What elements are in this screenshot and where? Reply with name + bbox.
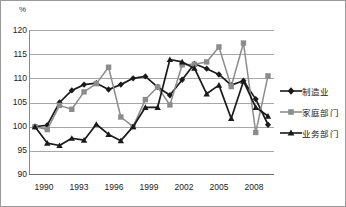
diamond-marker-icon xyxy=(280,85,302,97)
x-tick-1993: 1993 xyxy=(66,182,92,192)
x-tick-1996: 1996 xyxy=(101,182,127,192)
y-tick-100: 100 xyxy=(3,122,27,130)
legend-item-manufacturing[interactable]: 制造业 xyxy=(280,80,346,101)
legend-label-business: 业务部门 xyxy=(302,127,339,139)
y-tick-115: 115 xyxy=(3,50,27,58)
x-tick-2002: 2002 xyxy=(171,182,197,192)
chart-legend: 制造业 家庭部门 业务部门 xyxy=(280,80,346,143)
legend-label-household: 家庭部门 xyxy=(302,106,339,118)
y-tick-95: 95 xyxy=(3,146,27,154)
y-tick-90: 90 xyxy=(3,170,27,178)
legend-label-manufacturing: 制造业 xyxy=(302,85,330,97)
data-series-layer xyxy=(32,40,271,148)
y-tick-110: 110 xyxy=(3,74,27,82)
legend-item-business[interactable]: 业务部门 xyxy=(280,122,346,143)
square-marker-icon xyxy=(280,106,302,118)
plot-area xyxy=(29,30,274,175)
triangle-marker-icon xyxy=(280,127,302,139)
chart-frame: % 120 115 110 105 100 95 90 1990 1993 19… xyxy=(0,0,346,207)
chart-svg xyxy=(29,30,274,175)
y-tick-105: 105 xyxy=(3,98,27,106)
legend-item-household[interactable]: 家庭部门 xyxy=(280,101,346,122)
x-tick-2008: 2008 xyxy=(241,182,267,192)
x-tick-1990: 1990 xyxy=(31,182,57,192)
y-tick-120: 120 xyxy=(3,26,27,34)
y-axis-tick-labels: 120 115 110 105 100 95 90 xyxy=(1,1,27,207)
x-tick-1999: 1999 xyxy=(136,182,162,192)
x-tick-2005: 2005 xyxy=(206,182,232,192)
